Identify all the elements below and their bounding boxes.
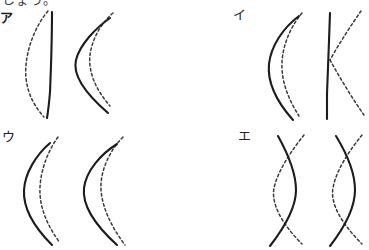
option-label-e: エ	[238, 129, 251, 142]
option-label-a: ア	[0, 11, 13, 24]
figure-e-right-dashed-curve	[333, 135, 362, 244]
figure-e-left-dashed-curve	[274, 135, 304, 244]
truncated-header-text: しょう。	[2, 0, 57, 8]
figure-e-right-solid-curve	[330, 136, 355, 246]
document-page: しょう。 ア イ ウ エ	[0, 0, 369, 250]
figure-a-left	[18, 8, 66, 120]
figure-e-left	[258, 132, 314, 248]
figure-i-right	[318, 8, 368, 120]
figure-u-left	[12, 135, 72, 247]
option-label-i: イ	[233, 8, 246, 21]
figure-u-left-dashed-curve	[40, 137, 60, 243]
figure-u-left-solid-curve	[24, 143, 52, 245]
figure-u-right-solid-curve	[84, 144, 117, 245]
figure-a-left-solid-line	[47, 12, 52, 118]
figure-i-right-dashed-lower	[330, 60, 364, 115]
figure-i-right-solid-line	[327, 13, 330, 119]
figure-i-left-solid-curve	[269, 16, 299, 120]
figure-u-right	[73, 135, 135, 249]
figure-a-right	[66, 10, 126, 122]
figure-i-left	[255, 10, 315, 122]
figure-i-right-dashed-upper	[330, 11, 361, 60]
figure-a-right-dashed-curve	[90, 13, 113, 106]
figure-e-right	[320, 132, 369, 248]
figure-a-left-dashed-curve	[26, 11, 48, 117]
